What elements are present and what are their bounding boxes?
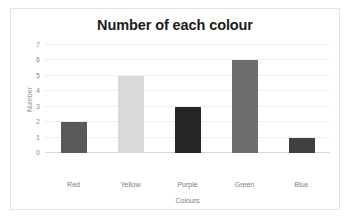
y-axis-tick-label: 3 bbox=[36, 102, 40, 109]
bar-slot bbox=[102, 45, 159, 153]
plot-area: 01234567 bbox=[45, 45, 330, 153]
bar-yellow bbox=[118, 76, 144, 153]
bar-red bbox=[61, 122, 87, 153]
y-axis-tick-label: 4 bbox=[36, 87, 40, 94]
y-axis-tick-label: 1 bbox=[36, 133, 40, 140]
chart-title: Number of each colour bbox=[11, 17, 339, 33]
bar-slot bbox=[45, 45, 102, 153]
bar-slot bbox=[216, 45, 273, 153]
y-axis-title-label: Number bbox=[26, 87, 33, 112]
y-axis-tick-label: 0 bbox=[36, 149, 40, 156]
bar-slot bbox=[159, 45, 216, 153]
x-axis-tick-label-green: Green bbox=[216, 181, 273, 188]
x-axis-tick-label-purple: Purple bbox=[159, 181, 216, 188]
x-axis-tick-labels: RedYellowPurpleGreenBlue bbox=[45, 181, 330, 188]
x-axis-tick-label-red: Red bbox=[45, 181, 102, 188]
y-axis-tick-label: 7 bbox=[36, 41, 40, 48]
y-axis-tick-label: 2 bbox=[36, 118, 40, 125]
y-axis-tick-label: 6 bbox=[36, 56, 40, 63]
chart-frame: Number of each colour Number 01234567 Re… bbox=[10, 8, 340, 210]
y-axis-tick-label: 5 bbox=[36, 71, 40, 78]
x-axis-tick-label-yellow: Yellow bbox=[102, 181, 159, 188]
bar-slot bbox=[273, 45, 330, 153]
y-axis-title: Number bbox=[23, 45, 35, 153]
bar-blue bbox=[289, 138, 315, 153]
x-axis-title: Colours bbox=[45, 197, 330, 204]
x-axis-tick-label-blue: Blue bbox=[273, 181, 330, 188]
bar-green bbox=[232, 60, 258, 153]
bar-purple bbox=[175, 107, 201, 153]
bar-series bbox=[45, 45, 330, 153]
